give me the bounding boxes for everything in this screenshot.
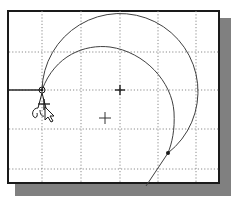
sketch-geometry bbox=[9, 14, 198, 186]
end-point-marker[interactable] bbox=[166, 151, 170, 155]
arc-center-mark-icon bbox=[115, 85, 125, 95]
crosshair-icon bbox=[99, 112, 111, 124]
sketch-canvas[interactable] bbox=[0, 0, 232, 199]
arc-tool-cursor-icon bbox=[33, 93, 54, 122]
inner-arc[interactable] bbox=[42, 47, 174, 153]
tangent-line[interactable] bbox=[146, 153, 168, 186]
